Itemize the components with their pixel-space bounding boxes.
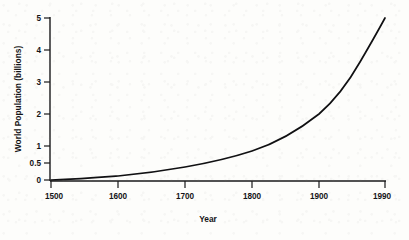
- y-tick-label-1: 1: [36, 142, 41, 151]
- y-tick-label-0: 0: [36, 176, 41, 185]
- y-tick-label-0p5: 0.5: [30, 159, 42, 168]
- x-tick-label-1700: 1700: [176, 192, 195, 201]
- chart-canvas: 5 4 3 2 1 0.5 0 1500 1600 1700 1800 1900…: [0, 0, 409, 240]
- y-axis-title: World Population (billions): [13, 46, 23, 153]
- x-axis-title: Year: [199, 214, 217, 224]
- y-tick-label-2: 2: [36, 110, 41, 119]
- world-population-chart: 5 4 3 2 1 0.5 0 1500 1600 1700 1800 1900…: [0, 0, 409, 240]
- y-tick-label-5: 5: [36, 14, 41, 23]
- y-tick-label-3: 3: [36, 78, 41, 87]
- x-tick-label-1600: 1600: [109, 192, 128, 201]
- y-tick-label-4: 4: [36, 46, 41, 55]
- x-tick-label-1990: 1990: [373, 192, 392, 201]
- x-tick-label-1800: 1800: [243, 192, 262, 201]
- x-tick-label-1900: 1900: [310, 192, 329, 201]
- chart-background: [0, 0, 409, 240]
- x-tick-label-1500: 1500: [45, 192, 64, 201]
